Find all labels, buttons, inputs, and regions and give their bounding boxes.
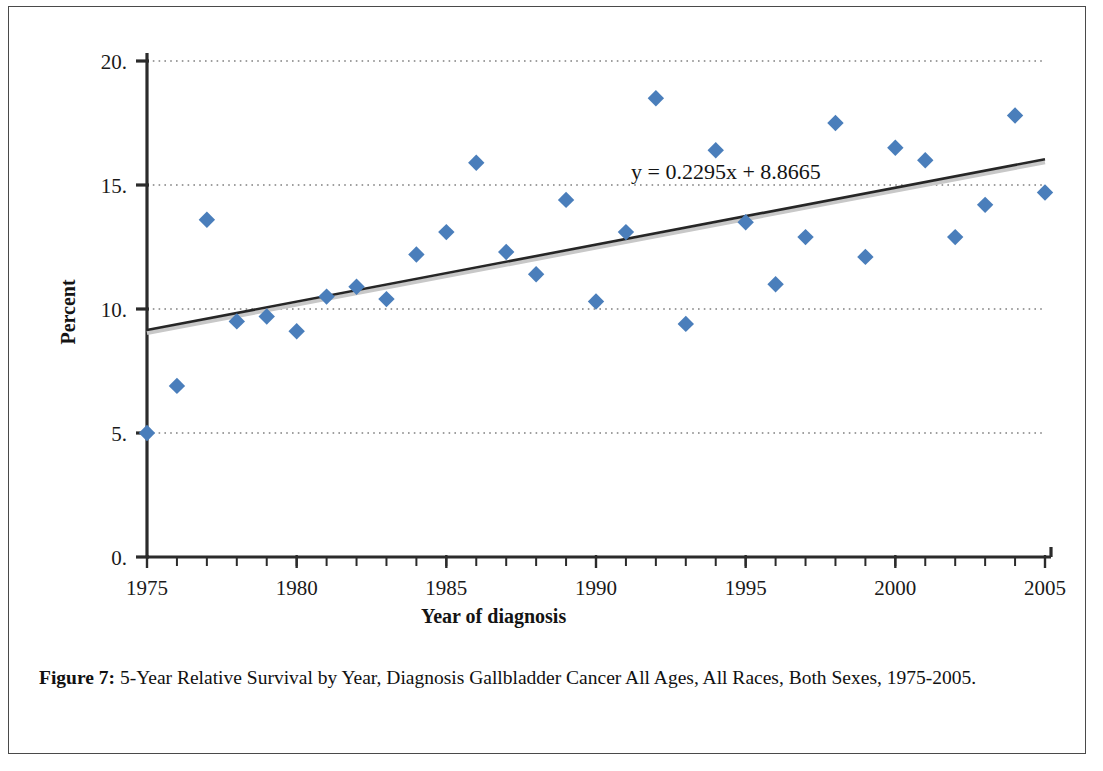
data-point: [917, 152, 933, 168]
data-point: [498, 244, 514, 260]
figure-number-label: Figure 7:: [39, 667, 115, 688]
data-point: [288, 323, 304, 339]
y-tick-label: 15.: [101, 174, 127, 198]
data-point: [1007, 107, 1023, 123]
x-tick-label: 1995: [725, 576, 767, 600]
data-point: [797, 229, 813, 245]
x-tick-label: 1990: [575, 576, 617, 600]
chart-plot-area: 1975198019851990199520002005 0.5.10.15.2…: [9, 7, 1087, 647]
data-point: [767, 276, 783, 292]
trendline-equation-label: y = 0.2295x + 8.8665: [631, 159, 821, 184]
y-axis-title: Percent: [57, 279, 79, 344]
data-point: [588, 293, 604, 309]
data-point: [887, 140, 903, 156]
page-canvas: 1975198019851990199520002005 0.5.10.15.2…: [0, 0, 1103, 771]
y-tick-label: 0.: [111, 546, 127, 570]
data-point: [378, 291, 394, 307]
data-point: [558, 192, 574, 208]
y-tick-label: 5.: [111, 422, 127, 446]
data-point: [318, 288, 334, 304]
x-tick-label: 1975: [126, 576, 168, 600]
x-tick-label: 1980: [276, 576, 318, 600]
x-tick-label: 2000: [874, 576, 916, 600]
y-tick-label: 10.: [101, 298, 127, 322]
data-point: [139, 425, 155, 441]
x-tick-label: 1985: [425, 576, 467, 600]
data-point: [857, 249, 873, 265]
x-tick-labels-group: 1975198019851990199520002005: [126, 576, 1066, 600]
data-point: [468, 154, 484, 170]
scatter-chart: 1975198019851990199520002005 0.5.10.15.2…: [9, 7, 1087, 647]
y-tick-labels-group: 0.5.10.15.20.: [101, 50, 127, 570]
data-point: [977, 197, 993, 213]
data-point: [169, 378, 185, 394]
data-points-group: [139, 90, 1053, 441]
data-point: [408, 246, 424, 262]
data-point: [1037, 184, 1053, 200]
x-tick-label: 2005: [1024, 576, 1066, 600]
data-point: [648, 90, 664, 106]
y-tick-label: 20.: [101, 50, 127, 74]
data-point: [947, 229, 963, 245]
data-point: [528, 266, 544, 282]
figure-caption: Figure 7: 5-Year Relative Survival by Ye…: [39, 662, 1061, 694]
figure-caption-text: 5-Year Relative Survival by Year, Diagno…: [115, 667, 976, 688]
data-point: [678, 316, 694, 332]
data-point: [199, 212, 215, 228]
data-point: [827, 115, 843, 131]
figure-frame: 1975198019851990199520002005 0.5.10.15.2…: [8, 6, 1086, 754]
x-axis-title: Year of diagnosis: [421, 605, 566, 628]
data-point: [438, 224, 454, 240]
data-point: [708, 142, 724, 158]
